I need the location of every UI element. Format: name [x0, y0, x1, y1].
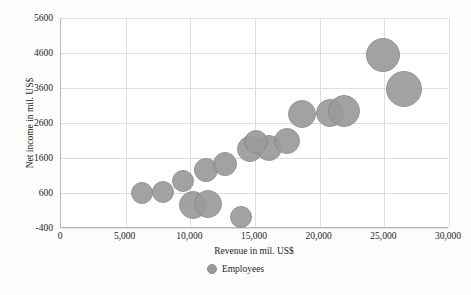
- y-tick-label: -400: [36, 223, 53, 233]
- chart-legend: Employees: [0, 264, 471, 274]
- legend-label-employees: Employees: [222, 264, 264, 274]
- legend-bubble-icon: [207, 264, 217, 274]
- gridline-horizontal: [61, 228, 448, 229]
- y-tick-label: 4600: [34, 48, 53, 58]
- bubble-point: [366, 38, 400, 72]
- x-tick-label: 0: [58, 231, 63, 242]
- bubble-point: [230, 206, 252, 228]
- x-tick-label: 25,000: [370, 231, 396, 242]
- bubble-chart: Net income in mil. US$ 56004600360026001…: [0, 0, 471, 295]
- bubble-point: [213, 152, 237, 176]
- y-tick-label: 3600: [34, 83, 53, 93]
- plot-area: [60, 18, 448, 228]
- bubble-point: [172, 170, 194, 192]
- y-axis-tick-labels: 56004600360026001600600-400: [0, 0, 57, 295]
- x-tick-label: 30,000: [435, 231, 461, 242]
- x-tick-label: 20,000: [306, 231, 332, 242]
- bubble-point: [152, 181, 174, 203]
- bubble-point: [386, 71, 422, 107]
- gridline-vertical: [449, 18, 450, 227]
- bubble-point: [131, 182, 153, 204]
- x-axis-title: Revenue in mil. US$: [60, 246, 448, 256]
- bubble-point: [194, 190, 222, 218]
- y-tick-label: 600: [39, 188, 53, 198]
- x-tick-label: 15,000: [241, 231, 267, 242]
- bubble-point: [288, 100, 316, 128]
- x-tick-label: 10,000: [176, 231, 202, 242]
- y-tick-label: 1600: [34, 153, 53, 163]
- y-tick-label: 5600: [34, 13, 53, 23]
- bubble-point: [274, 128, 300, 154]
- x-tick-label: 5,000: [114, 231, 135, 242]
- gridline-vertical: [126, 18, 127, 227]
- y-tick-label: 2600: [34, 118, 53, 128]
- gridline-vertical: [255, 18, 256, 227]
